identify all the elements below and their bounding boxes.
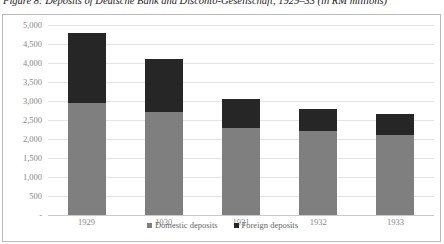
bar-stack bbox=[222, 99, 260, 215]
legend-item: Foreign deposits bbox=[234, 220, 298, 230]
figure-container: Figure 8: Deposits of Deutsche Bank and … bbox=[0, 0, 444, 244]
y-axis-tick-label: 4,500 bbox=[23, 39, 42, 49]
bar-segment-domestic bbox=[376, 135, 414, 215]
bar-segment-domestic bbox=[222, 128, 260, 215]
y-axis-tick-label: 1,500 bbox=[23, 153, 42, 163]
bar-stack bbox=[68, 33, 106, 215]
y-axis-tick-label: 1,000 bbox=[23, 172, 42, 182]
y-axis-tick-label: 3,000 bbox=[23, 96, 42, 106]
legend-item: Domestic deposits bbox=[147, 220, 218, 230]
bar-segment-foreign bbox=[376, 114, 414, 135]
legend-label: Domestic deposits bbox=[155, 220, 218, 230]
plot-area bbox=[48, 25, 434, 215]
chart-frame: -5001,0001,5002,0002,5003,0003,5004,0004… bbox=[2, 14, 441, 242]
chart-legend: Domestic depositsForeign deposits bbox=[3, 220, 442, 230]
y-axis-tick-label: 5,000 bbox=[23, 20, 42, 30]
y-axis: -5001,0001,5002,0002,5003,0003,5004,0004… bbox=[3, 25, 45, 215]
bar-stack bbox=[299, 109, 337, 215]
bar-segment-foreign bbox=[222, 99, 260, 128]
bar-segment-foreign bbox=[145, 59, 183, 112]
bar-stack bbox=[376, 114, 414, 215]
figure-caption: Figure 8: Deposits of Deutsche Bank and … bbox=[3, 0, 443, 8]
y-axis-tick-label: 4,000 bbox=[23, 58, 42, 68]
legend-swatch-icon bbox=[234, 223, 239, 228]
bar-series-container bbox=[48, 25, 434, 215]
bar-stack bbox=[145, 59, 183, 215]
y-axis-tick-label: 2,000 bbox=[23, 134, 42, 144]
bar-segment-foreign bbox=[68, 33, 106, 103]
y-axis-tick-label: - bbox=[39, 210, 42, 220]
y-axis-tick-label: 3,500 bbox=[23, 77, 42, 87]
bar-segment-domestic bbox=[68, 103, 106, 215]
bar-segment-domestic bbox=[299, 131, 337, 215]
legend-label: Foreign deposits bbox=[242, 220, 298, 230]
y-axis-tick-label: 2,500 bbox=[23, 115, 42, 125]
legend-swatch-icon bbox=[147, 223, 152, 228]
axis-baseline bbox=[48, 215, 434, 216]
y-axis-tick-label: 500 bbox=[29, 191, 42, 201]
bar-segment-foreign bbox=[299, 109, 337, 132]
bar-segment-domestic bbox=[145, 112, 183, 215]
